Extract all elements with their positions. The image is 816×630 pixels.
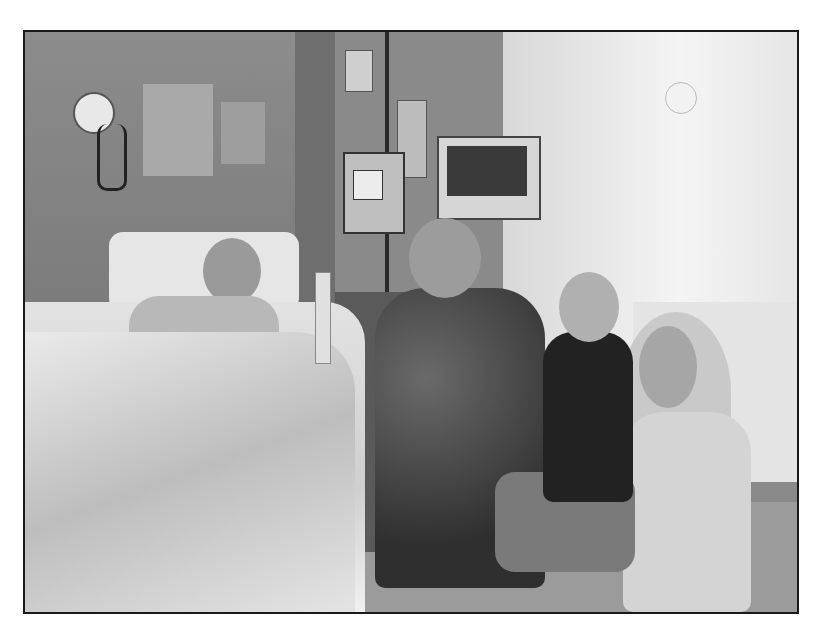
boy-body [543, 332, 633, 502]
bed-rail [315, 272, 331, 364]
wall-notice-small [221, 102, 265, 164]
bed-blanket [25, 332, 355, 612]
woman-face [639, 326, 697, 408]
wall-notice [143, 84, 213, 176]
woman-body [623, 412, 751, 612]
patient-head [203, 238, 261, 304]
infusion-pump-screen [353, 170, 383, 200]
iv-bag [345, 50, 373, 92]
patient-monitor-screen [447, 146, 527, 196]
elderly-man-head [409, 218, 481, 298]
wall-phone-cord [97, 124, 127, 191]
boy-head [559, 272, 619, 342]
hospital-room-photo: Black-and-white photograph of a hospital… [23, 30, 799, 614]
wall-clock-right-icon [665, 82, 697, 114]
